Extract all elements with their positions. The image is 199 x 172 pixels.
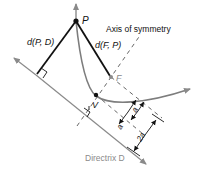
parabola-diagram: P F V d(P, D) d(F, P) Axis of symmetry D…	[0, 0, 199, 172]
label-v: V	[92, 100, 99, 110]
dimension-a-lower	[119, 112, 128, 124]
label-dim-a1: a	[115, 122, 125, 131]
dimension-tick	[152, 114, 164, 122]
label-f: F	[116, 73, 122, 83]
directrix-line	[14, 58, 36, 75]
label-axis: Axis of symmetry	[106, 24, 171, 34]
label-directrix: Directrix D	[85, 153, 125, 163]
right-angle-icon	[41, 68, 47, 78]
vertex-point	[94, 93, 98, 97]
label-dist-pd: d(P, D)	[27, 37, 54, 47]
point-p	[73, 18, 78, 23]
label-dim-a2: a	[130, 105, 140, 114]
label-dist-fp: d(F, P)	[95, 40, 121, 50]
label-p: P	[82, 15, 89, 26]
focus-point	[109, 75, 113, 79]
dimension-2a	[145, 120, 156, 135]
segment-pd	[37, 21, 76, 74]
label-dim-2a: 2a	[134, 130, 147, 144]
